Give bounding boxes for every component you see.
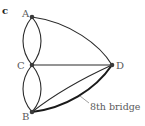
annotation-leader-line	[80, 96, 89, 103]
node-c	[30, 63, 35, 68]
node-d	[110, 63, 115, 68]
edge-a-c-right	[32, 17, 41, 65]
annotation-8th-bridge: 8th bridge	[90, 101, 141, 112]
node-label-c: C	[17, 60, 25, 71]
panel-label: c	[2, 5, 8, 16]
node-label-b: B	[22, 111, 29, 122]
node-b	[30, 110, 35, 115]
edge-a-c-left	[23, 17, 32, 65]
edge-c-b-right	[32, 65, 41, 112]
edge-c-b-left	[23, 65, 32, 112]
konigsberg-graph-diagram: c A C B D 8th bridge	[0, 0, 145, 126]
node-label-a: A	[21, 8, 30, 19]
node-label-d: D	[116, 60, 124, 71]
edge-a-d	[32, 17, 112, 65]
node-a	[30, 15, 35, 20]
